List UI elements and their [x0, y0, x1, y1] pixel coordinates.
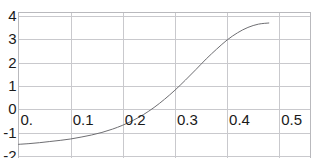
y-tick-label: -2 [3, 148, 16, 158]
plot-frame [19, 13, 311, 159]
y-tick-label: -1 [3, 125, 16, 140]
y-tick-label: 4 [8, 8, 16, 23]
x-tick-label: 0.5 [281, 112, 302, 127]
y-tick-label: 1 [8, 78, 16, 93]
x-tick-label: 0.3 [177, 112, 198, 127]
x-tick-label: 0. [21, 112, 34, 127]
y-tick-label: 3 [8, 31, 16, 46]
plot-figure: ' ' ' ' ' ' ' ' ' ' ' ' ' ' ' ' ' -2-101… [0, 0, 314, 158]
y-tick-label: 2 [8, 55, 16, 70]
y-tick-label: 0 [8, 101, 16, 116]
horizontal-gridlines [19, 17, 311, 157]
vertical-gridlines [72, 13, 280, 159]
x-tick-label: 0.2 [125, 112, 146, 127]
x-tick-label: 0.4 [229, 112, 250, 127]
plot-canvas [0, 0, 314, 158]
x-tick-label: 0.1 [73, 112, 94, 127]
